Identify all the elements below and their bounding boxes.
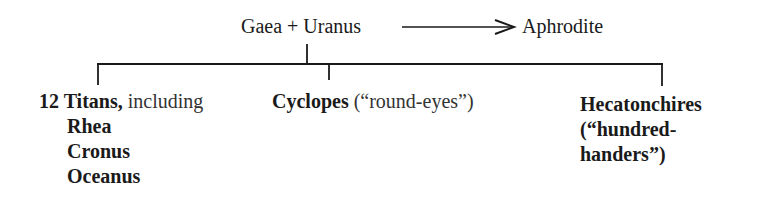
titans-heading: 12 Titans, including — [39, 89, 203, 113]
hecatonchires-line-2: (“hundred- — [580, 117, 676, 141]
titan-cronus: Cronus — [67, 139, 130, 163]
titans-name: 12 Titans, — [39, 90, 123, 112]
aphrodite-label: Aphrodite — [522, 14, 603, 38]
arrow-icon — [402, 20, 514, 34]
titan-rhea: Rhea — [67, 114, 111, 138]
hecatonchires-line-3: handers”) — [580, 142, 666, 166]
titans-suffix: including — [123, 90, 204, 112]
cyclopes-name: Cyclopes — [272, 90, 349, 112]
hecatonchires-line-1: Hecatonchires — [580, 92, 702, 116]
titan-oceanus: Oceanus — [67, 164, 140, 188]
cyclopes-heading: Cyclopes (“round-eyes”) — [272, 89, 474, 113]
cyclopes-suffix: (“round-eyes”) — [349, 90, 474, 112]
